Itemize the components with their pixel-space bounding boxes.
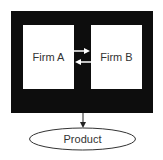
firm-b-box: Firm B — [91, 25, 142, 89]
firm-a-label: Firm A — [33, 51, 65, 63]
product-text: Product — [64, 133, 102, 145]
product-label: Product — [29, 128, 136, 150]
arrow-down-icon — [80, 113, 86, 128]
firm-b-label: Firm B — [100, 51, 132, 63]
firm-a-box: Firm A — [23, 25, 74, 89]
